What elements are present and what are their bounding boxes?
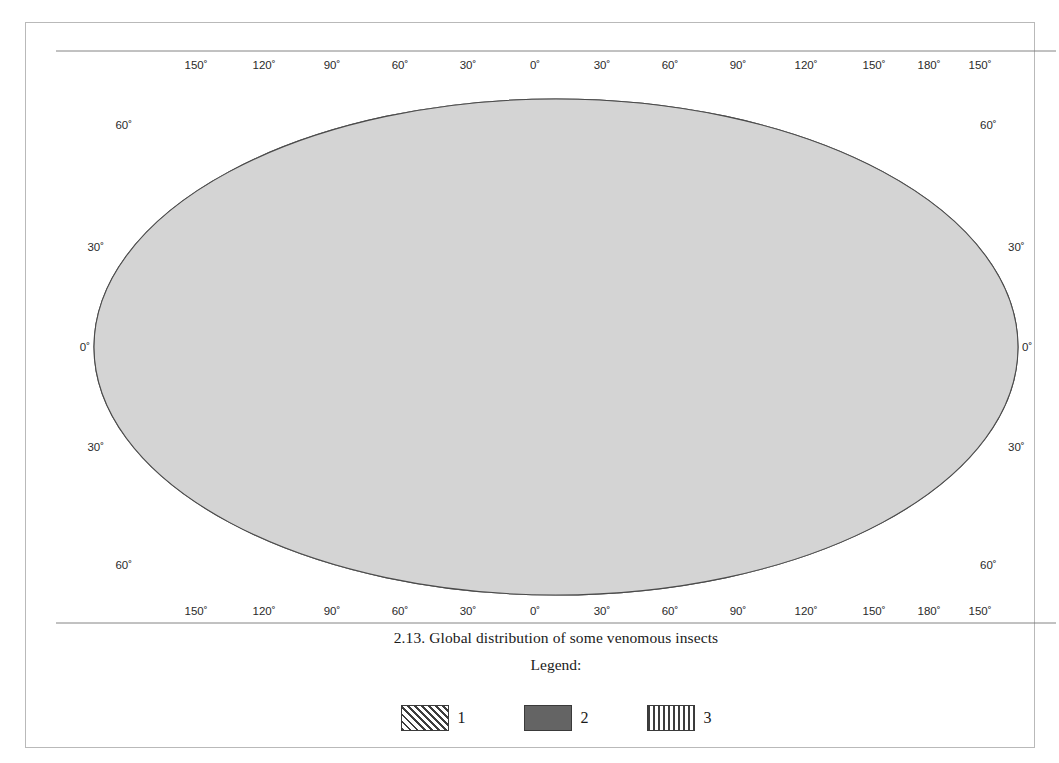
figure-frame: 150˚ 120˚ 90˚ 60˚ 30˚ 0˚ 30˚ 60˚ 90˚ 120…	[25, 22, 1035, 748]
legend-label-3: 3	[704, 710, 712, 726]
lon-label-top: 150˚	[184, 59, 207, 71]
lon-label-bottom: 150˚	[862, 605, 885, 617]
lon-label-top: 180˚	[917, 59, 940, 71]
lon-label-bottom: 150˚	[184, 605, 207, 617]
lon-label-top: 0˚	[530, 59, 540, 71]
lat-label-left: 60˚	[115, 559, 132, 571]
longitude-axis-bottom: 150˚ 120˚ 90˚ 60˚ 30˚ 0˚ 30˚ 60˚ 90˚ 120…	[184, 605, 991, 617]
lon-label-bottom: 0˚	[530, 605, 540, 617]
lon-label-top: 150˚	[968, 59, 991, 71]
legend-swatch-solid-icon	[524, 705, 572, 731]
lon-label-top: 90˚	[324, 59, 341, 71]
legend-label-1: 1	[458, 710, 466, 726]
lat-label-left: 60˚	[115, 119, 132, 131]
legend-swatch-hatch-icon	[401, 705, 449, 731]
globe-outline	[94, 99, 1018, 595]
lat-label-right: 60˚	[980, 559, 997, 571]
legend-item-2[interactable]: 2	[524, 705, 589, 731]
lon-label-top: 60˚	[392, 59, 409, 71]
lat-label-right: 60˚	[980, 119, 997, 131]
lon-label-bottom: 150˚	[968, 605, 991, 617]
lat-label-right: 30˚	[1008, 241, 1025, 253]
lon-label-top: 30˚	[594, 59, 611, 71]
legend-item-3[interactable]: 3	[647, 705, 712, 731]
lon-label-bottom: 60˚	[392, 605, 409, 617]
lon-label-bottom: 120˚	[794, 605, 817, 617]
lat-label-left: 30˚	[87, 441, 104, 453]
lon-label-bottom: 30˚	[594, 605, 611, 617]
lat-label-right: 0˚	[1022, 341, 1032, 353]
lat-label-right: 30˚	[1008, 441, 1025, 453]
lon-label-bottom: 120˚	[252, 605, 275, 617]
longitude-axis-top: 150˚ 120˚ 90˚ 60˚ 30˚ 0˚ 30˚ 60˚ 90˚ 120…	[184, 59, 991, 71]
legend-label-2: 2	[581, 710, 589, 726]
lon-label-bottom: 180˚	[917, 605, 940, 617]
lon-label-top: 60˚	[662, 59, 679, 71]
lon-label-bottom: 60˚	[662, 605, 679, 617]
legend-item-1[interactable]: 1	[401, 705, 466, 731]
lon-label-top: 30˚	[460, 59, 477, 71]
lon-label-bottom: 90˚	[730, 605, 747, 617]
legend-title: Legend:	[51, 656, 1059, 674]
legend: 1 2 3	[51, 705, 1059, 731]
lon-label-top: 120˚	[252, 59, 275, 71]
lon-label-bottom: 30˚	[460, 605, 477, 617]
lon-label-bottom: 90˚	[324, 605, 341, 617]
figure-caption: 2.13. Global distribution of some venomo…	[51, 629, 1059, 647]
lat-label-left: 0˚	[80, 341, 90, 353]
globe	[94, 97, 1018, 599]
lat-label-left: 30˚	[87, 241, 104, 253]
world-map[interactable]: 150˚ 120˚ 90˚ 60˚ 30˚ 0˚ 30˚ 60˚ 90˚ 120…	[56, 47, 1056, 625]
lon-label-top: 90˚	[730, 59, 747, 71]
lon-label-top: 120˚	[794, 59, 817, 71]
map-canvas[interactable]: 150˚ 120˚ 90˚ 60˚ 30˚ 0˚ 30˚ 60˚ 90˚ 120…	[56, 47, 1056, 625]
legend-swatch-vertical-icon	[647, 705, 695, 731]
lon-label-top: 150˚	[862, 59, 885, 71]
caption-block: 2.13. Global distribution of some venomo…	[51, 629, 1059, 674]
